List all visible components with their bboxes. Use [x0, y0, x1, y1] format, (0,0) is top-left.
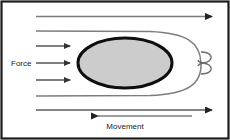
- diagram-canvas: Force Movement: [0, 0, 230, 140]
- flow-diagram-figure: Force Movement: [0, 0, 230, 140]
- body-ellipse: [78, 38, 172, 88]
- force-label: Force: [11, 59, 32, 68]
- movement-label: Movement: [106, 122, 144, 131]
